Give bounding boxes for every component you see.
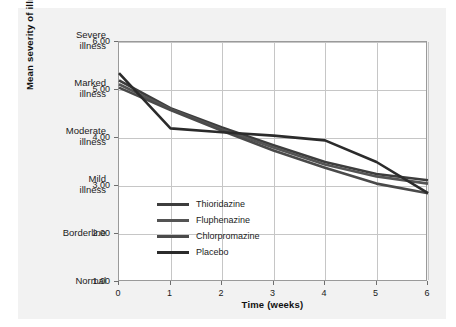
x-tick-label: 3 [263,288,283,298]
y-tick-label: 5.00 [78,84,110,94]
y-tick-label: 6.00 [78,36,110,46]
y-tick-label: 3.00 [78,180,110,190]
y-axis-title: Mean severity of illness scores [24,0,35,90]
x-tick-label: 6 [417,288,437,298]
legend-item: Placebo [157,244,260,260]
x-tickmark [324,281,325,285]
x-tickmark [376,281,377,285]
y-tick-label: 1.00 [78,276,110,286]
x-tickmark [170,281,171,285]
y-tickmark [114,41,118,42]
legend-item: Chlorpromazine [157,228,260,244]
legend-swatch-icon [157,203,189,206]
x-tickmark [427,281,428,285]
legend-label: Thioridazine [196,199,245,209]
y-tickmark [114,137,118,138]
legend-swatch-icon [157,235,189,238]
y-tick-label: 2.00 [78,228,110,238]
x-tickmark [118,281,119,285]
y-tickmark [114,233,118,234]
series-line-fluphenazine [119,84,428,183]
x-tick-label: 0 [108,288,128,298]
x-tick-label: 4 [314,288,334,298]
y-tickmark [114,185,118,186]
x-tick-label: 1 [160,288,180,298]
legend-label: Fluphenazine [196,215,250,225]
chart-figure: NormalBorderlineMildillnessModerateillne… [0,0,456,327]
legend-label: Chlorpromazine [196,231,260,241]
y-tickmark [114,89,118,90]
chart-legend: ThioridazineFluphenazineChlorpromazinePl… [157,196,260,260]
y-tick-label: 4.00 [78,132,110,142]
legend-label: Placebo [196,247,229,257]
legend-item: Thioridazine [157,196,260,212]
legend-swatch-icon [157,251,189,254]
x-tick-label: 5 [366,288,386,298]
legend-swatch-icon [157,219,189,222]
gridline-vertical [428,42,429,280]
x-tickmark [273,281,274,285]
x-tickmark [221,281,222,285]
legend-item: Fluphenazine [157,212,260,228]
x-axis-title: Time (weeks) [118,299,427,310]
x-tick-label: 2 [211,288,231,298]
y-tickmark [114,281,118,282]
